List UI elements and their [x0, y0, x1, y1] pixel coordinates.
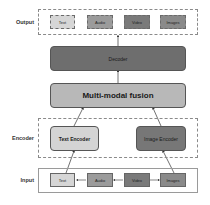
- multimodal-fusion-block: Multi-modal fusion: [50, 83, 186, 108]
- input-row-label: Input: [4, 177, 34, 183]
- image-encoder-block: Image Encoder: [136, 126, 186, 151]
- input-text-chip: Text: [50, 173, 75, 187]
- input-video-chip: Video: [124, 173, 150, 187]
- text-encoder-block: Text Encoder: [50, 126, 99, 151]
- encoder-row-label: Encoder: [4, 135, 34, 141]
- output-images-chip: Images: [160, 15, 186, 29]
- decoder-block: Decoder: [50, 46, 186, 71]
- input-audio-chip: Audio: [87, 173, 113, 187]
- output-text-chip: Text: [50, 15, 75, 29]
- output-row-label: Output: [4, 19, 34, 25]
- input-images-chip: Images: [160, 173, 186, 187]
- output-video-chip: Video: [124, 15, 150, 29]
- output-audio-chip: Audio: [87, 15, 113, 29]
